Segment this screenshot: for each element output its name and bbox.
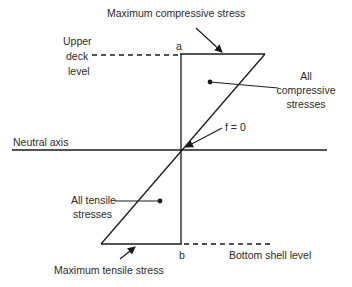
- max-tensile-label: Maximum tensile stress: [54, 264, 164, 277]
- tensile-label-1: All tensile: [71, 194, 116, 207]
- bottom-shell-label: Bottom shell level: [229, 249, 311, 262]
- max-compressive-label: Maximum compressive stress: [107, 7, 245, 20]
- max-tensile-arrow-icon: [120, 247, 135, 259]
- upper-deck-label-2: deck: [66, 50, 88, 63]
- compressive-label-2: compressive: [276, 84, 336, 97]
- point-b-label: b: [179, 249, 185, 262]
- upper-deck-label-1: Upper: [63, 35, 92, 48]
- stress-distribution-line: [101, 54, 265, 244]
- max-compressive-arrow-icon: [196, 28, 222, 52]
- upper-deck-label-3: level: [68, 65, 90, 78]
- neutral-axis-label: Neutral axis: [13, 136, 68, 149]
- point-a-label: a: [176, 40, 182, 53]
- tensile-label-2: stresses: [73, 208, 112, 221]
- zero-stress-arrow-icon: [186, 128, 222, 147]
- compressive-label-1: All: [276, 70, 336, 83]
- zero-stress-label: f = 0: [225, 121, 246, 134]
- compressive-label-3: stresses: [276, 98, 336, 111]
